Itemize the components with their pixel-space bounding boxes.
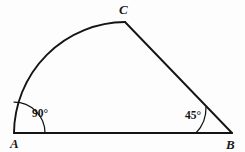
vertex-label-A: A: [9, 136, 19, 151]
vertex-label-C: C: [119, 2, 128, 17]
vertex-label-B: B: [225, 137, 235, 152]
angle-label-A: 90°: [32, 107, 49, 119]
segment-CB: [125, 22, 232, 133]
angle-label-B: 45°: [185, 109, 202, 121]
arc-AC: [14, 22, 125, 133]
geometry-figure: 90° 45° A B C: [0, 0, 245, 152]
figure-canvas: 90° 45° A B C: [0, 0, 245, 152]
